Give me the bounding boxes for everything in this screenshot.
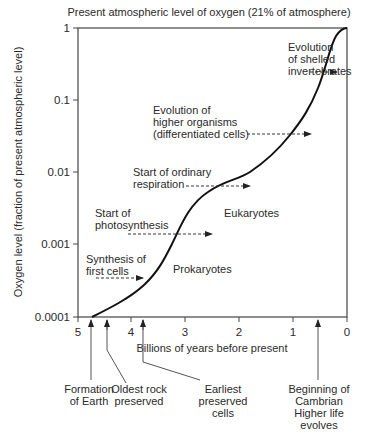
- svg-text:Start of: Start of: [95, 207, 131, 219]
- svg-text:first cells: first cells: [86, 265, 129, 277]
- svg-text:respiration: respiration: [133, 178, 184, 190]
- chart-title: Present atmospheric level of oxygen (21%…: [67, 6, 350, 18]
- region-prokaryotes: Prokaryotes: [173, 263, 232, 275]
- svg-text:preserved: preserved: [199, 395, 248, 407]
- x-tick-5: 5: [75, 326, 81, 338]
- svg-text:cells: cells: [212, 407, 235, 419]
- x-axis-label: Billions of years before present: [136, 342, 287, 354]
- svg-text:evolves: evolves: [300, 419, 338, 431]
- oxygen-chart: Present atmospheric level of oxygen (21%…: [0, 0, 365, 439]
- svg-text:of shelled: of shelled: [288, 53, 335, 65]
- svg-text:of Earth: of Earth: [70, 395, 109, 407]
- svg-text:Cambrian: Cambrian: [295, 395, 343, 407]
- annotation-higher-organisms: Evolution of higher organisms (different…: [153, 104, 311, 140]
- svg-text:Earliest: Earliest: [205, 383, 242, 395]
- svg-text:Evolution of: Evolution of: [153, 104, 211, 116]
- svg-text:Oldest rock: Oldest rock: [111, 383, 167, 395]
- svg-text:invertebrates: invertebrates: [288, 65, 352, 77]
- y-tick-0.1: 0.1: [54, 94, 70, 106]
- svg-text:Beginning of: Beginning of: [288, 383, 350, 395]
- y-tick-1: 1: [64, 22, 70, 34]
- svg-text:Synthesis of: Synthesis of: [86, 253, 147, 265]
- svg-text:Formation: Formation: [64, 383, 114, 395]
- svg-text:Start of ordinary: Start of ordinary: [133, 166, 212, 178]
- event-cambrian: Beginning of Cambrian Higher life evolve…: [288, 320, 350, 431]
- region-eukaryotes: Eukaryotes: [224, 207, 280, 219]
- svg-text:higher organisms: higher organisms: [153, 116, 238, 128]
- x-tick-2: 2: [236, 326, 242, 338]
- svg-text:photosynthesis: photosynthesis: [95, 219, 169, 231]
- event-formation-of-earth: Formation of Earth: [64, 320, 114, 407]
- y-tick-0.01: 0.01: [48, 166, 70, 178]
- annotation-respiration: Start of ordinary respiration: [133, 166, 250, 190]
- annotation-shelled-invertebrates: Evolution of shelled invertebrates: [288, 41, 352, 77]
- y-tick-0.001: 0.001: [41, 238, 70, 250]
- x-tick-4: 4: [128, 326, 135, 338]
- svg-text:(differentiated cells): (differentiated cells): [153, 128, 249, 140]
- y-axis: 1 0.1 0.01 0.001 0.0001: [35, 22, 78, 323]
- x-tick-0: 0: [344, 326, 350, 338]
- x-tick-1: 1: [290, 326, 296, 338]
- svg-text:preserved: preserved: [115, 395, 164, 407]
- event-oldest-rock: Oldest rock preserved: [107, 320, 167, 407]
- x-tick-3: 3: [182, 326, 188, 338]
- annotation-photosynthesis: Start of photosynthesis: [95, 207, 212, 234]
- svg-text:Higher life: Higher life: [294, 407, 344, 419]
- x-axis: 5 4 3 2 1 0: [75, 317, 350, 338]
- y-tick-0.0001: 0.0001: [35, 311, 70, 323]
- annotation-first-cells: Synthesis of first cells: [86, 253, 147, 278]
- y-axis-label: Oxygen level (fraction of present atmosp…: [12, 47, 24, 298]
- svg-text:Evolution: Evolution: [288, 41, 333, 53]
